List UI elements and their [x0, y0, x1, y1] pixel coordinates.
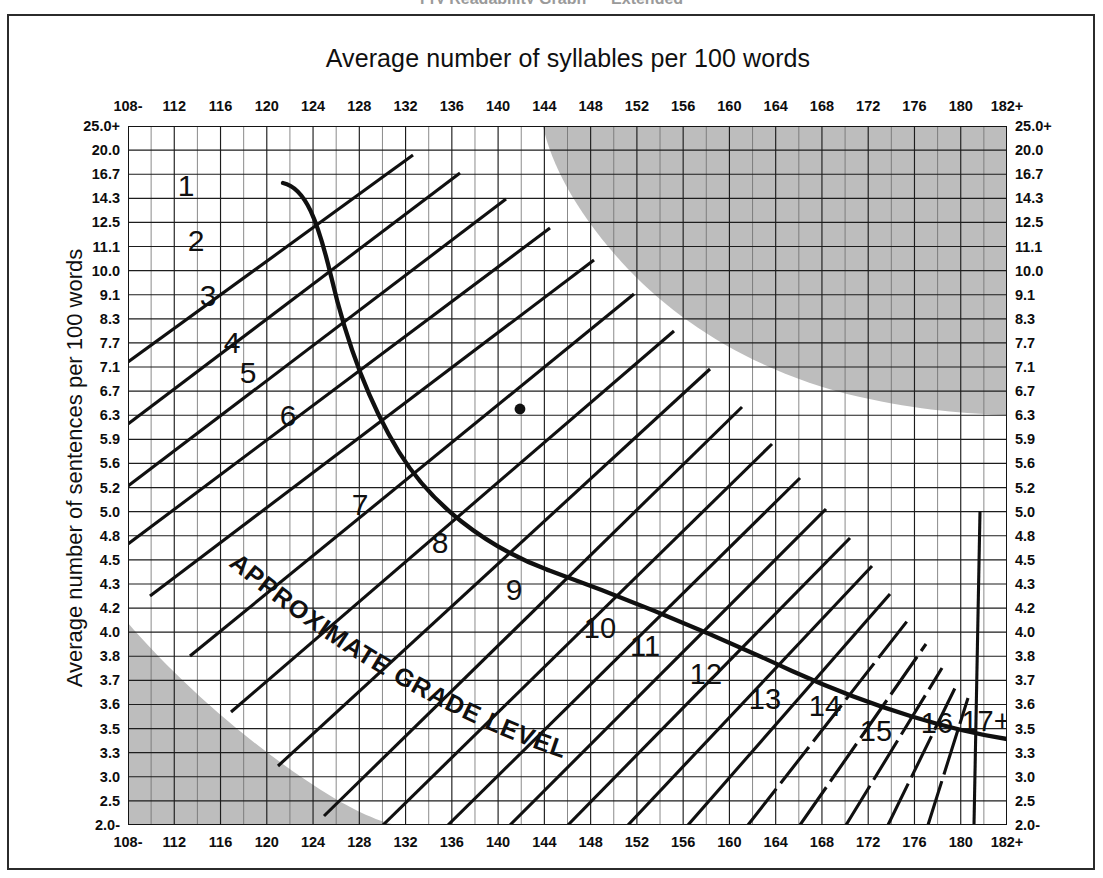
y-tick-label: 4.0 — [1015, 624, 1075, 640]
x-tick-label: 140 — [486, 97, 510, 115]
grade-level-number: 7 — [352, 488, 369, 521]
plot-area: APPROXIMATE GRADE LEVEL 1234567891011121… — [128, 126, 1007, 825]
x-tick-label: 144 — [532, 97, 556, 115]
grade-level-number: 4 — [224, 326, 241, 359]
x-tick-label: 176 — [902, 97, 926, 115]
y-tick-label: 4.5 — [60, 552, 120, 568]
x-tick-label: 160 — [717, 833, 741, 851]
y-tick-label: 4.5 — [1015, 552, 1075, 568]
x-tick-label: 124 — [301, 97, 325, 115]
x-tick-label: 152 — [625, 97, 649, 115]
x-tick-label: 164 — [764, 97, 788, 115]
y-tick-label: 3.8 — [1015, 648, 1075, 664]
y-tick-label: 16.7 — [60, 166, 120, 182]
y-tick-label: 5.2 — [1015, 480, 1075, 496]
x-tick-label: 176 — [902, 833, 926, 851]
x-tick-label: 160 — [717, 97, 741, 115]
y-tick-label: 4.2 — [1015, 600, 1075, 616]
y-tick-label: 5.0 — [1015, 504, 1075, 520]
x-tick-label: 172 — [856, 833, 880, 851]
data-point — [515, 404, 526, 415]
x-tick-label: 156 — [671, 833, 695, 851]
y-tick-label: 4.0 — [60, 624, 120, 640]
y-tick-label: 3.7 — [60, 672, 120, 688]
y-tick-label: 25.0+ — [60, 118, 120, 134]
y-tick-label: 6.3 — [60, 407, 120, 423]
x-tick-label: 116 — [209, 833, 232, 851]
y-tick-label: 11.1 — [60, 239, 120, 255]
x-tick-label: 148 — [579, 833, 603, 851]
grade-level-number: 16 — [921, 707, 953, 739]
grade-level-number: 5 — [240, 356, 257, 389]
x-tick-label: 136 — [440, 97, 464, 115]
x-tick-label: 128 — [347, 833, 371, 851]
x-tick-label: 132 — [393, 833, 417, 851]
grade-level-number: 14 — [809, 690, 841, 722]
y-tick-label: 2.0- — [1015, 817, 1075, 833]
y-tick-label: 3.3 — [1015, 745, 1075, 761]
grade-level-number: 2 — [188, 224, 205, 257]
y-tick-label: 7.1 — [1015, 359, 1075, 375]
y-tick-label: 4.3 — [60, 576, 120, 592]
x-tick-label: 120 — [255, 833, 279, 851]
y-tick-label: 20.0 — [1015, 142, 1075, 158]
y-tick-label: 3.6 — [1015, 696, 1075, 712]
y-tick-label: 9.1 — [1015, 287, 1075, 303]
grade-level-number: 6 — [280, 399, 297, 432]
x-tick-label: 156 — [671, 97, 695, 115]
grade-level-number: 9 — [506, 573, 523, 606]
x-tick-label: 120 — [255, 97, 279, 115]
x-tick-label: 168 — [810, 833, 834, 851]
y-tick-label: 14.3 — [1015, 190, 1075, 206]
x-tick-label: 152 — [625, 833, 649, 851]
x-tick-label: 182+ — [991, 97, 1024, 115]
x-tick-label: 180 — [949, 97, 973, 115]
x-tick-label: 172 — [856, 97, 880, 115]
x-tick-label: 148 — [579, 97, 603, 115]
y-tick-label: 10.0 — [1015, 263, 1075, 279]
y-tick-label: 4.8 — [1015, 528, 1075, 544]
y-tick-label: 4.2 — [60, 600, 120, 616]
y-tick-label: 2.0- — [60, 817, 120, 833]
grade-level-number: 11 — [630, 630, 660, 662]
y-tick-label: 4.3 — [1015, 576, 1075, 592]
x-tick-label: 132 — [393, 97, 417, 115]
grade-level-number: 12 — [690, 658, 722, 690]
x-tick-label: 182+ — [991, 833, 1024, 851]
x-tick-label: 164 — [764, 833, 788, 851]
y-tick-label: 16.7 — [1015, 166, 1075, 182]
grade-level-number: 13 — [749, 683, 781, 715]
x-tick-label: 136 — [440, 833, 464, 851]
grade-level-number: 17+ — [961, 705, 1007, 737]
y-tick-label: 3.7 — [1015, 672, 1075, 688]
y-tick-label: 25.0+ — [1015, 118, 1075, 134]
grade-level-number: 15 — [860, 715, 892, 747]
x-tick-label: 140 — [486, 833, 510, 851]
y-tick-label: 6.7 — [1015, 383, 1075, 399]
x-tick-label: 108- — [113, 833, 142, 851]
y-tick-label: 5.6 — [1015, 455, 1075, 471]
y-tick-label: 14.3 — [60, 190, 120, 206]
clipped-heading: Fry Readability Graph — Extended — [0, 0, 1103, 4]
y-tick-label: 3.6 — [60, 696, 120, 712]
y-tick-label: 12.5 — [1015, 214, 1075, 230]
x-tick-label: 108- — [113, 97, 142, 115]
y-tick-label: 6.7 — [60, 383, 120, 399]
y-tick-label: 6.3 — [1015, 407, 1075, 423]
y-tick-label: 5.9 — [1015, 431, 1075, 447]
y-tick-label: 5.6 — [60, 455, 120, 471]
x-tick-label: 116 — [209, 97, 232, 115]
y-tick-label: 11.1 — [1015, 239, 1075, 255]
y-tick-label: 7.1 — [60, 359, 120, 375]
y-tick-label: 5.9 — [60, 431, 120, 447]
y-tick-label: 7.7 — [1015, 335, 1075, 351]
y-tick-label: 3.3 — [60, 745, 120, 761]
grade-level-number: 1 — [178, 169, 195, 202]
x-tick-label: 124 — [301, 833, 325, 851]
y-tick-label: 3.0 — [1015, 769, 1075, 785]
y-tick-label: 3.5 — [60, 721, 120, 737]
y-tick-label: 4.8 — [60, 528, 120, 544]
y-tick-label: 2.5 — [1015, 793, 1075, 809]
grade-level-number: 3 — [200, 279, 217, 312]
x-tick-label: 112 — [163, 833, 186, 851]
